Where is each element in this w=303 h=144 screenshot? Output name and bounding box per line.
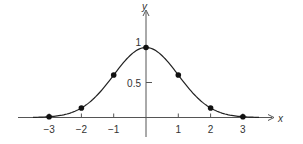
data-point bbox=[143, 45, 149, 51]
y-tick-label: 1 bbox=[135, 37, 141, 48]
data-point bbox=[240, 114, 246, 120]
chart-canvas: xy−3−2−11230.51 bbox=[0, 0, 303, 144]
data-point bbox=[111, 72, 117, 78]
x-tick-label: 2 bbox=[208, 124, 214, 135]
axes bbox=[18, 10, 274, 137]
x-tick-label: 1 bbox=[176, 124, 182, 135]
x-tick-label: 3 bbox=[240, 124, 246, 135]
data-point bbox=[208, 105, 214, 111]
y-axis-label: y bbox=[141, 1, 148, 12]
data-point bbox=[46, 114, 52, 120]
x-axis-label: x bbox=[277, 113, 284, 124]
tick-labels: xy−3−2−11230.51 bbox=[43, 1, 284, 135]
data-point bbox=[176, 72, 182, 78]
x-tick-label: −1 bbox=[108, 124, 120, 135]
x-tick-label: −3 bbox=[43, 124, 55, 135]
x-tick-label: −2 bbox=[76, 124, 88, 135]
y-tick-label: 0.5 bbox=[127, 78, 141, 89]
data-point bbox=[79, 105, 85, 111]
bell-curve-chart: xy−3−2−11230.51 bbox=[0, 0, 303, 144]
